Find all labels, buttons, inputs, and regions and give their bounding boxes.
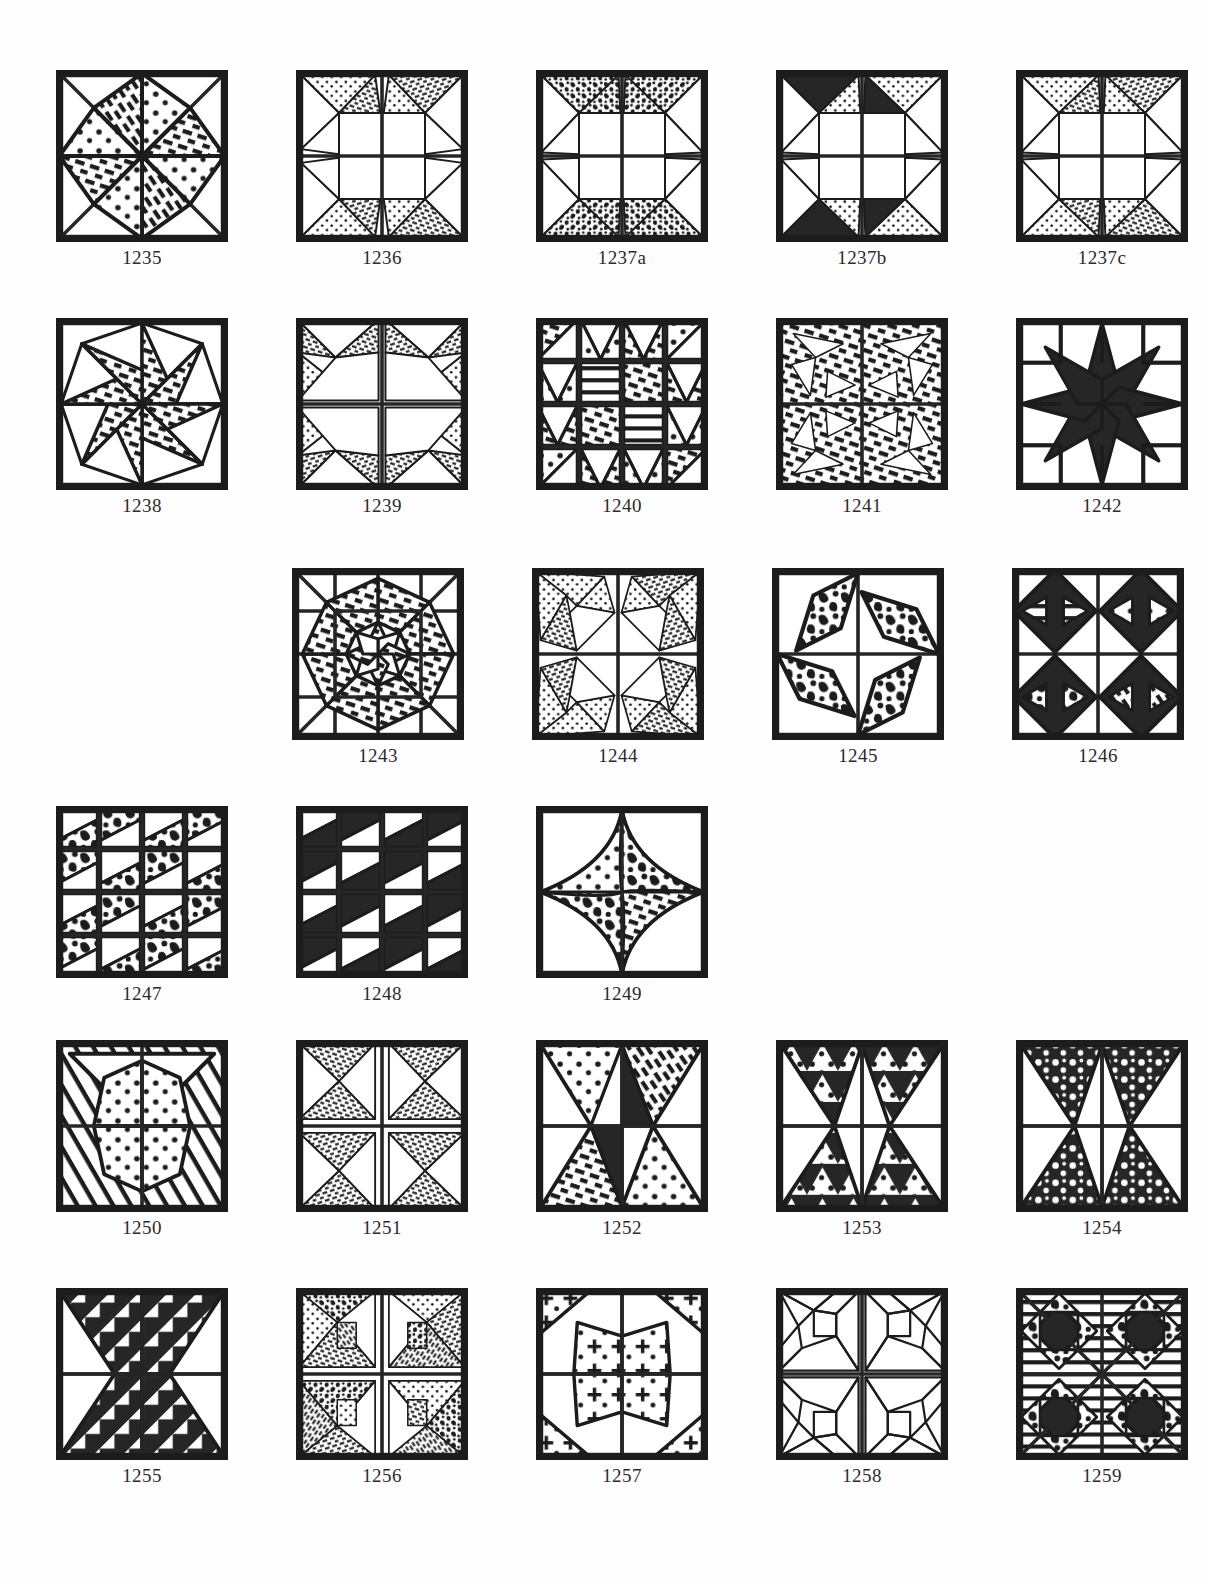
pattern-block-1237c[interactable]: 1237c: [1016, 70, 1188, 269]
pattern-number-label: 1237a: [598, 247, 646, 269]
quilt-block-svg-1243: [292, 568, 464, 740]
pattern-block-1242[interactable]: 1242: [1016, 318, 1188, 517]
quilt-block-svg-1236: [296, 70, 468, 242]
pattern-block-1235[interactable]: 1235: [56, 70, 228, 269]
quilt-block-diagram: [296, 70, 468, 242]
pattern-number-label: 1245: [838, 745, 878, 767]
pattern-number-label: 1253: [842, 1217, 882, 1239]
pattern-row: 1247: [56, 806, 708, 1005]
quilt-block-diagram: [776, 70, 948, 242]
quilt-block-svg-1258: [776, 1288, 948, 1460]
pattern-block-1241[interactable]: 1241: [776, 318, 948, 517]
pattern-block-1237b[interactable]: 1237b: [776, 70, 948, 269]
quilt-block-svg-1251: [296, 1040, 468, 1212]
quilt-block-diagram: [536, 318, 708, 490]
pattern-row: 1250: [56, 1040, 1188, 1239]
pattern-block-1239[interactable]: 1239: [296, 318, 468, 517]
pattern-block-1249[interactable]: 1249: [536, 806, 708, 1005]
quilt-block-diagram: [292, 568, 464, 740]
pattern-number-label: 1256: [362, 1465, 402, 1487]
quilt-block-diagram: [536, 70, 708, 242]
quilt-block-diagram: [536, 1040, 708, 1212]
pattern-block-1240[interactable]: 1240: [536, 318, 708, 517]
pattern-number-label: 1236: [362, 247, 402, 269]
pattern-number-label: 1243: [358, 745, 398, 767]
quilt-block-diagram: [772, 568, 944, 740]
quilt-block-svg-1237c: [1016, 70, 1188, 242]
quilt-block-svg-1241: [776, 318, 948, 490]
quilt-block-svg-1235: [56, 70, 228, 242]
pattern-number-label: 1237b: [837, 247, 887, 269]
quilt-block-svg-1259: [1016, 1288, 1188, 1460]
pattern-row: 1243: [292, 568, 1184, 767]
quilt-block-diagram: [56, 1040, 228, 1212]
quilt-block-diagram: [1016, 318, 1188, 490]
pattern-row: 1255: [56, 1288, 1188, 1487]
quilt-block-diagram: [296, 1288, 468, 1460]
pattern-row: 1235: [56, 70, 1188, 269]
pattern-number-label: 1238: [122, 495, 162, 517]
quilt-block-diagram: [1016, 1288, 1188, 1460]
quilt-block-diagram: [296, 1040, 468, 1212]
quilt-block-svg-1246: [1012, 568, 1184, 740]
quilt-block-svg-1255: [56, 1288, 228, 1460]
pattern-block-1237a[interactable]: 1237a: [536, 70, 708, 269]
pattern-number-label: 1246: [1078, 745, 1118, 767]
pattern-block-1256[interactable]: 1256: [296, 1288, 468, 1487]
quilt-block-svg-1248: [296, 806, 468, 978]
quilt-block-svg-1253: [776, 1040, 948, 1212]
pattern-block-1259[interactable]: 1259: [1016, 1288, 1188, 1487]
pattern-block-1254[interactable]: 1254: [1016, 1040, 1188, 1239]
quilt-block-diagram: [56, 70, 228, 242]
quilt-block-svg-1252: [536, 1040, 708, 1212]
quilt-block-diagram: [536, 806, 708, 978]
pattern-number-label: 1257: [602, 1465, 642, 1487]
pattern-number-label: 1242: [1082, 495, 1122, 517]
quilt-block-diagram: [296, 318, 468, 490]
pattern-block-1243[interactable]: 1243: [292, 568, 464, 767]
quilt-block-svg-1247: [56, 806, 228, 978]
pattern-number-label: 1248: [362, 983, 402, 1005]
quilt-block-diagram: [1016, 70, 1188, 242]
pattern-block-1252[interactable]: 1252: [536, 1040, 708, 1239]
pattern-block-1255[interactable]: 1255: [56, 1288, 228, 1487]
quilt-block-diagram: [776, 1040, 948, 1212]
pattern-number-label: 1241: [842, 495, 882, 517]
quilt-block-diagram: [1016, 1040, 1188, 1212]
quilt-block-diagram: [1012, 568, 1184, 740]
pattern-number-label: 1237c: [1078, 247, 1126, 269]
pattern-block-1238[interactable]: 1238: [56, 318, 228, 517]
quilt-block-diagram: [532, 568, 704, 740]
pattern-block-1244[interactable]: 1244: [532, 568, 704, 767]
quilt-block-svg-1250: [56, 1040, 228, 1212]
quilt-block-svg-1239: [296, 318, 468, 490]
quilt-block-svg-1254: [1016, 1040, 1188, 1212]
quilt-block-diagram: [56, 1288, 228, 1460]
pattern-block-1236[interactable]: 1236: [296, 70, 468, 269]
pattern-number-label: 1247: [122, 983, 162, 1005]
pattern-number-label: 1258: [842, 1465, 882, 1487]
pattern-number-label: 1239: [362, 495, 402, 517]
pattern-block-1247[interactable]: 1247: [56, 806, 228, 1005]
pattern-number-label: 1249: [602, 983, 642, 1005]
quilt-block-svg-1257: [536, 1288, 708, 1460]
pattern-block-1248[interactable]: 1248: [296, 806, 468, 1005]
pattern-block-1246[interactable]: 1246: [1012, 568, 1184, 767]
quilt-block-diagram: [776, 318, 948, 490]
pattern-number-label: 1240: [602, 495, 642, 517]
pattern-block-1251[interactable]: 1251: [296, 1040, 468, 1239]
pattern-number-label: 1251: [362, 1217, 402, 1239]
pattern-catalog-page: 1235: [0, 0, 1208, 1584]
quilt-block-svg-1249: [536, 806, 708, 978]
quilt-block-diagram: [536, 1288, 708, 1460]
pattern-number-label: 1250: [122, 1217, 162, 1239]
pattern-block-1250[interactable]: 1250: [56, 1040, 228, 1239]
pattern-block-1258[interactable]: 1258: [776, 1288, 948, 1487]
quilt-block-diagram: [56, 318, 228, 490]
pattern-number-label: 1259: [1082, 1465, 1122, 1487]
pattern-block-1253[interactable]: 1253: [776, 1040, 948, 1239]
pattern-block-1245[interactable]: 1245: [772, 568, 944, 767]
quilt-block-diagram: [776, 1288, 948, 1460]
pattern-block-1257[interactable]: 1257: [536, 1288, 708, 1487]
quilt-block-svg-1240: [536, 318, 708, 490]
